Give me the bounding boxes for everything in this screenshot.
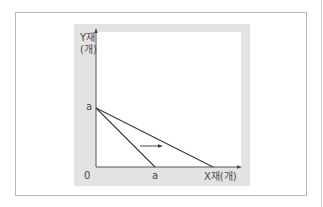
x-axis-label: X재(개) — [204, 172, 237, 182]
shift-arrow-head-icon — [158, 144, 163, 148]
budget-line-diagram — [0, 0, 323, 207]
y-axis-unit-label: (개) — [80, 45, 97, 55]
y-intercept-label: a — [86, 102, 92, 112]
y-axis-label: Y재 — [80, 33, 95, 43]
rotated-budget-line — [96, 108, 213, 167]
x-axis-arrow-icon — [237, 165, 242, 168]
x-intercept-label: a — [152, 171, 158, 181]
origin-label: 0 — [84, 171, 90, 181]
original-budget-line — [96, 108, 155, 167]
